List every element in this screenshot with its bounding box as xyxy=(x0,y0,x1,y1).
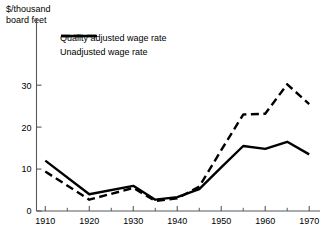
plot-area: 01020301910192019301940195019601970 xyxy=(0,0,331,234)
x-tick-label: 1920 xyxy=(79,216,99,226)
line-chart: $/thousand board feet Quality adjusted w… xyxy=(0,0,331,234)
x-tick-label: 1960 xyxy=(255,216,275,226)
series-line-unadjusted xyxy=(45,142,309,200)
x-tick-label: 1970 xyxy=(299,216,319,226)
y-tick-label: 30 xyxy=(21,81,31,91)
y-tick-label: 20 xyxy=(21,123,31,133)
y-tick-label: 10 xyxy=(21,164,31,174)
x-tick-label: 1910 xyxy=(35,216,55,226)
x-tick-label: 1950 xyxy=(211,216,231,226)
y-tick-label: 0 xyxy=(26,206,31,216)
x-tick-label: 1940 xyxy=(167,216,187,226)
series-line-quality-adjusted xyxy=(45,84,309,201)
x-tick-label: 1930 xyxy=(123,216,143,226)
